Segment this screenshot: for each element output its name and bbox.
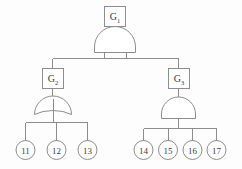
basic-event-label-16: 16: [188, 146, 198, 156]
basic-event-17[interactable]: 17: [207, 141, 226, 160]
basic-event-12[interactable]: 12: [47, 141, 66, 160]
g3-label-sub: 3: [181, 79, 184, 86]
g3-label-base: G: [174, 73, 181, 84]
gate-top-and[interactable]: [95, 27, 136, 53]
top-event-label-sub: 1: [117, 17, 120, 24]
g2-label-sub: 2: [55, 79, 58, 86]
basic-event-label-14: 14: [139, 146, 149, 156]
intermediate-event-g2[interactable]: G2: [43, 69, 64, 89]
basic-event-11[interactable]: 11: [16, 141, 35, 160]
top-event-g1[interactable]: G1: [105, 7, 126, 27]
basic-event-label-12: 12: [52, 146, 61, 156]
gate-right-and[interactable]: [162, 97, 196, 119]
fault-tree-canvas: G1 G2: [0, 0, 242, 169]
and-gate-shape-right[interactable]: [162, 97, 196, 119]
g2-label-base: G: [48, 73, 55, 84]
intermediate-event-g3[interactable]: G3: [169, 69, 190, 89]
basic-event-label-11: 11: [21, 146, 30, 156]
basic-event-label-15: 15: [164, 146, 174, 156]
basic-event-label-13: 13: [83, 146, 93, 156]
basic-event-13[interactable]: 13: [78, 141, 97, 160]
and-gate-shape-top[interactable]: [95, 27, 136, 53]
basic-event-label-17: 17: [212, 146, 222, 156]
basic-event-14[interactable]: 14: [134, 141, 153, 160]
top-event-label-base: G: [110, 11, 117, 22]
basic-event-16[interactable]: 16: [183, 141, 202, 160]
fault-tree-diagram: G1 G2: [0, 0, 242, 169]
basic-event-15[interactable]: 15: [159, 141, 178, 160]
